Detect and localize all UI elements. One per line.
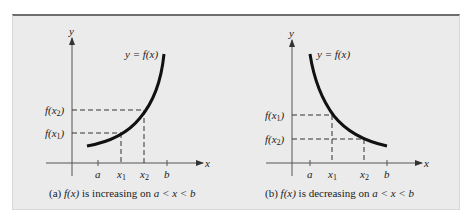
ytick-fx1: f(x1)	[265, 109, 285, 123]
ytick-fx2: f(x2)	[45, 104, 65, 118]
caption-b: (b) f(x) is decreasing on a < x < b	[265, 187, 414, 200]
ytick-fx2: f(x2)	[265, 133, 285, 147]
xtick-x1: x1	[116, 168, 126, 182]
x-axis-label: x	[204, 157, 210, 169]
caption-a: (a) f(x) is increasing on a < x < b	[49, 187, 196, 200]
xtick-a: a	[307, 168, 313, 180]
y-axis-label: y	[288, 27, 294, 39]
chart-decreasing: y x y = f(x) f(x1) f(x2) a x1 x2 b (b) f…	[265, 27, 429, 200]
curve-label: y = f(x)	[316, 48, 350, 61]
xtick-a: a	[95, 168, 101, 180]
y-axis-label: y	[68, 25, 74, 37]
xtick-x2: x2	[359, 168, 369, 182]
figure-svg: y x y = f(x) f(x2) f(x1) a x1 x2 b (a) f…	[0, 0, 471, 221]
decreasing-curve	[310, 54, 387, 146]
xtick-b: b	[164, 168, 170, 180]
xtick-x1: x1	[327, 168, 337, 182]
xtick-x2: x2	[139, 168, 149, 182]
chart-increasing: y x y = f(x) f(x2) f(x1) a x1 x2 b (a) f…	[45, 25, 210, 200]
x-axis-label: x	[423, 157, 429, 169]
ytick-fx1: f(x1)	[45, 127, 65, 141]
curve-label: y = f(x)	[124, 48, 158, 61]
xtick-b: b	[384, 168, 390, 180]
increasing-curve	[87, 54, 164, 146]
